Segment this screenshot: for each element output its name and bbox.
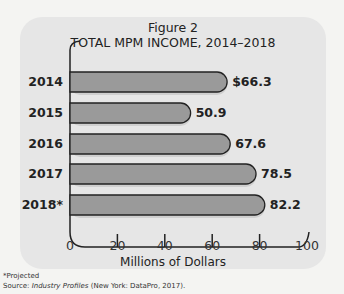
x-tick-label: 80 [245,238,275,253]
bar-2016 [70,134,230,154]
category-label: 2017 [3,166,63,181]
bar-2018 [70,195,265,215]
x-tick-label: 100 [292,238,322,253]
x-tick-label: 60 [197,238,227,253]
bar-2017 [70,164,256,184]
x-tick-label: 0 [55,238,85,253]
category-label: 2014 [3,74,63,89]
x-axis [70,72,309,247]
bar-2015 [70,103,191,123]
bar-2014 [70,72,227,92]
value-label: 67.6 [235,136,266,151]
axis-top-curl [70,41,80,72]
category-label: 2016 [3,136,63,151]
category-label: 2015 [3,105,63,120]
value-label: $66.3 [232,74,272,89]
value-label: 50.9 [196,105,227,120]
footnote: *Projected [3,272,39,280]
x-tick-label: 40 [150,238,180,253]
category-label: 2018* [3,197,63,212]
value-label: 82.2 [270,197,301,212]
x-axis-label: Millions of Dollars [20,255,326,269]
x-tick-label: 20 [102,238,132,253]
source-note: Source: Industry Profiles (New York: Dat… [3,282,185,290]
value-label: 78.5 [261,166,292,181]
